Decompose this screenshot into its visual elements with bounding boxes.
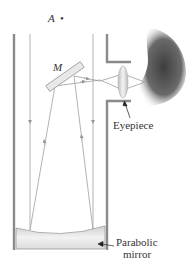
parabolic-mirror (16, 226, 105, 249)
telescope-tube (14, 34, 131, 250)
mirror-m-label: M (53, 62, 62, 73)
reflected-rays (30, 76, 93, 230)
telescope-diagram (0, 0, 188, 267)
tube-upper-right-wall (107, 34, 131, 62)
parabolic-mirror-label-line2: mirror (123, 249, 151, 260)
eyepiece-lens (118, 66, 128, 98)
parabolic-mirror-label-line1: Parabolic (116, 237, 158, 248)
eyepiece-label: Eyepiece (113, 120, 153, 131)
point-a-label: A (48, 13, 55, 24)
observer-eye-icon (137, 28, 186, 106)
point-a-dot: • (60, 13, 64, 24)
